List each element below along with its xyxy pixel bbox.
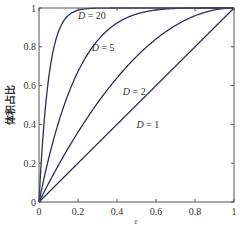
x-tick-label: 0.6 (150, 206, 163, 217)
curve-label-d5: D = 5 (91, 42, 115, 53)
y-tick-label: 1 (31, 3, 36, 14)
x-axis: 00.20.40.60.81 (37, 8, 237, 217)
curve-label-d2: D = 2 (122, 86, 146, 97)
y-axis-title: 体积占比 (4, 85, 16, 125)
curve-label-d1: D = 1 (136, 119, 160, 130)
x-axis-title: ε (134, 216, 138, 226)
y-tick-label: 0.2 (24, 158, 37, 169)
y-tick-label: 0.4 (24, 119, 37, 130)
y-axis: 00.20.40.60.81 (24, 3, 235, 208)
x-tick-label: 0.2 (72, 206, 85, 217)
y-tick-label: 0.8 (24, 41, 37, 52)
curve-label-d20: D = 20 (77, 10, 106, 21)
x-tick-label: 0.8 (189, 206, 202, 217)
y-tick-label: 0 (31, 197, 36, 208)
curves-group (39, 8, 234, 202)
x-tick-label: 0 (37, 206, 42, 217)
chart: 00.20.40.60.81 00.20.40.60.81 D = 1D = 2… (0, 0, 245, 231)
series-line-d1 (39, 8, 234, 202)
y-tick-label: 0.6 (24, 80, 37, 91)
x-tick-label: 0.4 (111, 206, 124, 217)
x-tick-label: 1 (232, 206, 237, 217)
curve-labels: D = 1D = 2D = 5D = 20 (77, 10, 159, 131)
